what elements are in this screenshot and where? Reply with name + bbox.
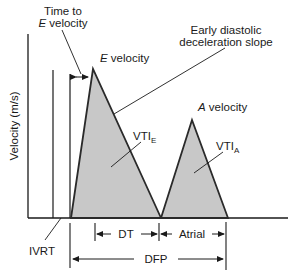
e-rest: velocity: [108, 52, 150, 64]
vti-a-sub: A: [234, 146, 240, 155]
vti-a-main: VTI: [216, 140, 234, 152]
vti-e-sub: E: [151, 136, 156, 145]
time-to-e-leader: [62, 30, 81, 74]
dfp-label: DFP: [145, 253, 168, 265]
a-wave-triangle: [161, 120, 228, 218]
vti-e-label: VTIE: [133, 130, 156, 145]
vti-a-label: VTIA: [216, 140, 240, 155]
y-axis-label: Velocity (m/s): [8, 91, 20, 160]
early-slope-label-1: Early diastolic: [191, 24, 262, 36]
time-to-e-label-1: Time to: [44, 5, 82, 17]
atrial-label: Atrial: [179, 228, 205, 240]
e-velocity-label: E velocity: [100, 52, 149, 64]
e-wave-triangle: [71, 69, 161, 218]
a-velocity-label: A velocity: [197, 101, 247, 113]
ivrt-label: IVRT: [29, 245, 55, 257]
time-to-e-rest: velocity: [46, 17, 88, 29]
vti-e-main: VTI: [133, 130, 151, 142]
doppler-diagram: Velocity (m/s) Time to E velocity Early …: [0, 0, 288, 275]
time-to-e-label-2: E velocity: [38, 17, 87, 29]
ivrt-leader: [45, 218, 61, 240]
a-italic: A: [197, 101, 206, 113]
a-rest: velocity: [206, 101, 248, 113]
dt-label: DT: [118, 228, 133, 240]
early-slope-label-2: deceleration slope: [179, 36, 272, 48]
